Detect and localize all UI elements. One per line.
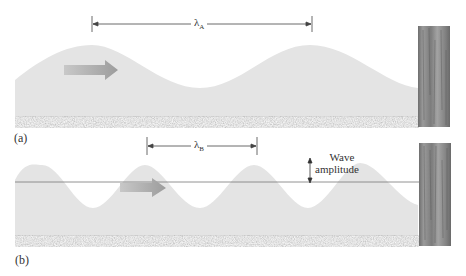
wavelength-label-a: λA (191, 16, 207, 31)
wavelength-label-b: λB (191, 138, 207, 153)
panel-a (15, 16, 450, 128)
amplitude-arrow-icon (308, 158, 312, 183)
panel-label-a: (a) (14, 131, 27, 146)
panel-label-b: (b) (15, 253, 29, 268)
wave-amplitude-label: Wave amplitude (315, 151, 359, 175)
seabed-a (15, 116, 419, 128)
seabed-b (15, 235, 419, 247)
wave-diagram (0, 0, 466, 276)
water-wave-a (15, 45, 418, 117)
panel-b (15, 137, 451, 247)
